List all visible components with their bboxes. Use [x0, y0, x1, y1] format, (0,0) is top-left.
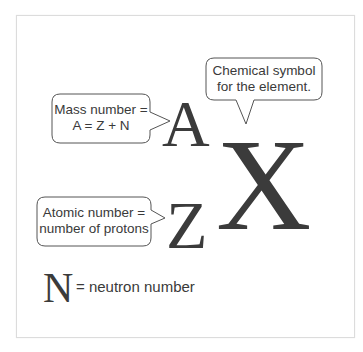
- callout-element-line2: for the element.: [206, 79, 322, 95]
- callout-mass-line1: Mass number =: [52, 102, 150, 118]
- callout-atomic-line1: Atomic number =: [37, 205, 151, 221]
- atomic-number-symbol: Z: [166, 191, 208, 259]
- mass-number-symbol: A: [162, 91, 210, 157]
- callout-mass-line2: A = Z + N: [52, 118, 150, 134]
- element-symbol: X: [216, 119, 311, 251]
- callout-atomic-line2: number of protons: [37, 221, 151, 237]
- callout-element-line1: Chemical symbol: [206, 63, 322, 79]
- neutron-number-symbol: N: [43, 267, 73, 309]
- callout-atomic: Atomic number = number of protons: [37, 205, 151, 237]
- callout-mass: Mass number = A = Z + N: [52, 102, 150, 134]
- callout-element: Chemical symbol for the element.: [206, 63, 322, 95]
- neutron-number-label: = neutron number: [76, 278, 195, 295]
